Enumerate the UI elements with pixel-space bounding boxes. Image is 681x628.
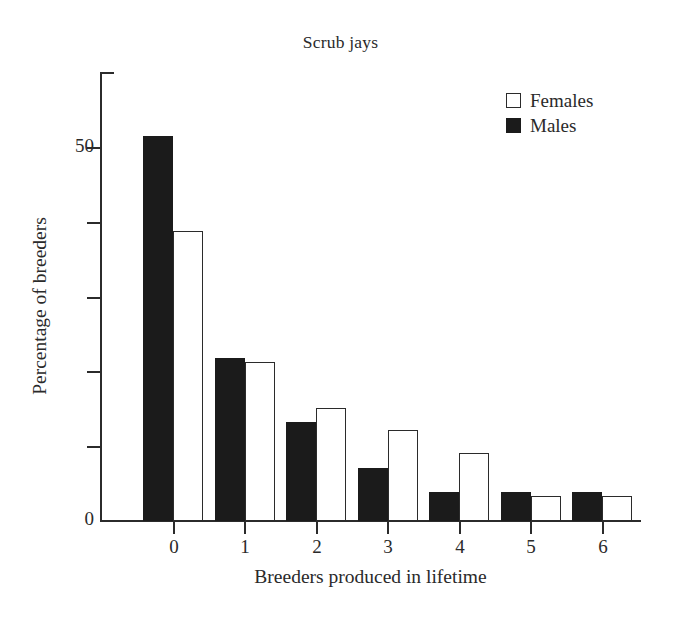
legend-item-females: Females xyxy=(506,88,593,113)
legend-swatch-males-icon xyxy=(506,118,521,133)
y-tick-10 xyxy=(87,446,101,448)
bar-males-2 xyxy=(286,422,316,521)
x-tick-5 xyxy=(530,521,532,534)
x-tick-label-1: 1 xyxy=(225,536,265,558)
x-tick-label-4: 4 xyxy=(440,536,480,558)
bar-females-2 xyxy=(316,408,346,521)
x-tick-4 xyxy=(459,521,461,534)
chart-legend: Females Males xyxy=(506,88,593,138)
y-tick-40 xyxy=(87,222,101,224)
x-tick-2 xyxy=(316,521,318,534)
y-tick-60 xyxy=(101,72,114,74)
bar-females-5 xyxy=(531,496,561,521)
bar-females-0 xyxy=(173,231,203,521)
bar-males-5 xyxy=(501,492,531,521)
bar-females-4 xyxy=(459,453,489,521)
legend-label-males: Males xyxy=(530,115,576,137)
bar-males-1 xyxy=(215,358,245,521)
legend-swatch-females-icon xyxy=(506,93,521,108)
bar-females-6 xyxy=(602,496,632,521)
x-tick-label-3: 3 xyxy=(368,536,408,558)
y-tick-label-0: 0 xyxy=(0,508,94,530)
y-tick-label-50: 50 xyxy=(0,135,94,157)
x-tick-1 xyxy=(244,521,246,534)
y-tick-20 xyxy=(87,371,101,373)
y-tick-30 xyxy=(87,297,101,299)
bar-males-6 xyxy=(572,492,602,521)
x-tick-label-6: 6 xyxy=(583,536,623,558)
x-tick-label-2: 2 xyxy=(297,536,337,558)
legend-item-males: Males xyxy=(506,113,593,138)
y-axis-title: Percentage of breeders xyxy=(29,156,51,456)
bar-females-3 xyxy=(388,430,418,521)
legend-label-females: Females xyxy=(530,90,593,112)
x-tick-0 xyxy=(173,521,175,534)
x-tick-6 xyxy=(602,521,604,534)
x-tick-label-0: 0 xyxy=(154,536,194,558)
x-tick-label-5: 5 xyxy=(511,536,551,558)
bar-males-3 xyxy=(358,468,388,521)
x-axis-title: Breeders produced in lifetime xyxy=(100,566,641,588)
bar-males-4 xyxy=(429,492,459,521)
bar-females-1 xyxy=(245,362,275,521)
bar-males-0 xyxy=(143,136,173,521)
chart-figure: Scrub jays 50 0 0 1 2 3 4 5 6 Breeders p… xyxy=(0,0,681,628)
x-tick-3 xyxy=(387,521,389,534)
